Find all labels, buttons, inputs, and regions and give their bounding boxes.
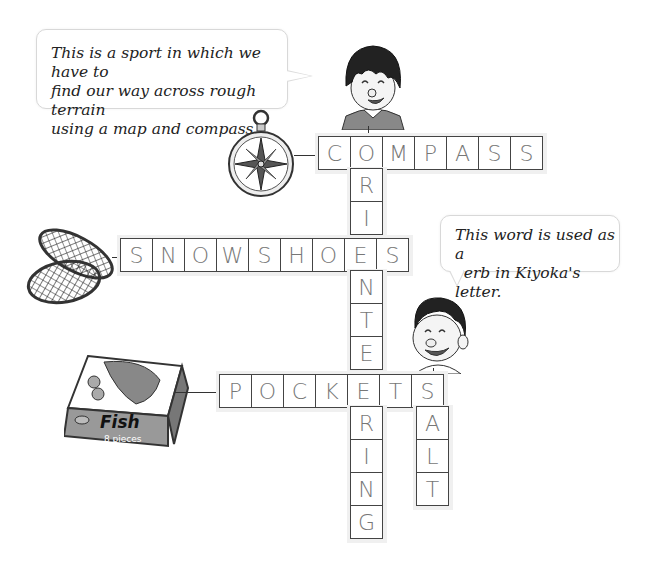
crossword-cell[interactable]: O: [312, 238, 345, 272]
word-salt: A L T: [413, 405, 453, 510]
compass-icon: [226, 108, 296, 200]
crossword-cell[interactable]: P: [219, 374, 252, 408]
crossword-cell[interactable]: S: [510, 136, 543, 170]
crossword-cell[interactable]: E: [344, 238, 377, 272]
crossword-cell[interactable]: W: [216, 238, 249, 272]
crossword-cell[interactable]: K: [315, 374, 348, 408]
crossword-cell[interactable]: S: [411, 374, 444, 408]
boy-character-icon: [403, 288, 473, 374]
crossword-cell[interactable]: O: [350, 136, 383, 170]
crossword-cell[interactable]: S: [376, 238, 409, 272]
word-orienteering-part-1: R I: [347, 167, 387, 239]
bubble-tail: [287, 70, 313, 82]
snowshoes-icon: [26, 222, 122, 310]
crossword-cell[interactable]: C: [283, 374, 316, 408]
clue-bubble-salt: This word is used as a verb in Kiyoka's …: [440, 215, 620, 272]
crossword-cell[interactable]: G: [350, 505, 383, 539]
crossword-cell[interactable]: R: [350, 168, 383, 202]
crossword-cell[interactable]: O: [184, 238, 217, 272]
word-orienteering-part-3: R I N G: [347, 405, 387, 543]
clue-line: verb in Kiyoka's letter.: [455, 264, 619, 302]
crossword-cell[interactable]: E: [347, 374, 380, 408]
crossword-cell[interactable]: T: [379, 374, 412, 408]
bubble-tail: [449, 271, 465, 287]
crossword-cell[interactable]: N: [152, 238, 185, 272]
crossword-cell[interactable]: S: [248, 238, 281, 272]
crossword-cell[interactable]: S: [120, 238, 153, 272]
clue-line: This word is used as a: [455, 226, 619, 264]
crossword-cell[interactable]: L: [416, 439, 449, 473]
crossword-cell[interactable]: I: [350, 439, 383, 473]
fish-connector: [175, 392, 220, 393]
clue-line: This is a sport in which we have to: [51, 44, 287, 82]
crossword-cell[interactable]: A: [416, 406, 449, 440]
crossword-cell[interactable]: I: [350, 201, 383, 235]
crossword-cell[interactable]: H: [280, 238, 313, 272]
crossword-cell[interactable]: O: [251, 374, 284, 408]
crossword-cell[interactable]: C: [318, 136, 351, 170]
word-orienteering-part-2: N T E: [347, 269, 387, 374]
crossword-cell[interactable]: N: [350, 270, 383, 304]
crossword-cell[interactable]: S: [478, 136, 511, 170]
fish-box-icon: Fish 8 pieces: [64, 352, 196, 448]
crossword-cell[interactable]: M: [382, 136, 415, 170]
clue-bubble-orienteering: This is a sport in which we have to find…: [36, 29, 288, 109]
fish-sublabel: 8 pieces: [104, 434, 142, 444]
crossword-cell[interactable]: E: [350, 336, 383, 370]
crossword-cell[interactable]: R: [350, 406, 383, 440]
crossword-cell[interactable]: P: [414, 136, 447, 170]
crossword-cell[interactable]: N: [350, 472, 383, 506]
crossword-cell[interactable]: T: [350, 303, 383, 337]
fish-label: Fish: [100, 412, 140, 432]
crossword-cell[interactable]: A: [446, 136, 479, 170]
girl-character-icon: [338, 38, 408, 130]
crossword-cell[interactable]: T: [416, 472, 449, 506]
